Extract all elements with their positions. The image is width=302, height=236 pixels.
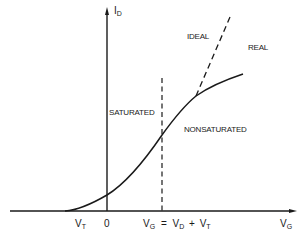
vd-subscript: D (179, 223, 184, 230)
ideal-curve (196, 17, 230, 96)
vt-symbol: V (75, 218, 82, 229)
vg-subscript: G (150, 223, 155, 230)
vg-symbol: V (143, 218, 150, 229)
x-axis-subscript: G (287, 223, 292, 230)
vt2-subscript: T (206, 223, 210, 230)
vt-subscript: T (82, 223, 86, 230)
x-axis-arrow-icon (289, 209, 297, 213)
saturated-region-label: SATURATED (109, 109, 154, 117)
real-curve (65, 74, 243, 211)
plus-sign: + (189, 218, 195, 229)
x-axis-symbol: V (280, 218, 287, 229)
y-axis-arrow-icon (105, 7, 109, 15)
ideal-label: IDEAL (187, 33, 209, 41)
diagram-canvas (0, 0, 302, 236)
vt-tick-label: VT (75, 219, 86, 230)
zero-tick-label: 0 (104, 219, 110, 229)
nonsaturated-region-label: NONSATURATED (184, 126, 247, 134)
boundary-tick-label: VG = VD + VT (143, 219, 211, 230)
y-axis-subscript: D (117, 10, 122, 17)
y-axis-label: ID (114, 6, 122, 17)
real-label: REAL (248, 44, 268, 52)
equals-sign: = (161, 218, 167, 229)
x-axis-label: VG (280, 219, 292, 230)
